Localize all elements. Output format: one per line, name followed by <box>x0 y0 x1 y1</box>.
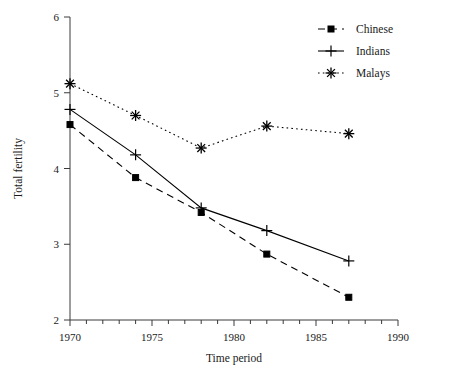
legend-label-malays: Malays <box>356 67 390 80</box>
y-tick-label: 3 <box>54 238 60 250</box>
series-line-indians <box>70 109 349 261</box>
chart-canvas: 2345619701975198019851990Time periodTota… <box>0 0 469 380</box>
legend-marker-chinese <box>328 26 334 32</box>
data-point-chinese <box>346 294 352 300</box>
y-tick-label: 5 <box>54 87 60 99</box>
x-tick-label: 1975 <box>141 331 164 343</box>
legend-label-indians: Indians <box>356 45 390 57</box>
data-point-chinese <box>67 122 73 128</box>
data-point-chinese <box>133 175 139 181</box>
legend-label-chinese: Chinese <box>356 23 393 35</box>
x-axis-title: Time period <box>206 352 262 365</box>
x-tick-label: 1985 <box>305 331 328 343</box>
y-tick-label: 4 <box>54 163 60 175</box>
fertility-line-chart: 2345619701975198019851990Time periodTota… <box>0 0 469 380</box>
y-axis-title: Total fertility <box>12 138 25 199</box>
x-tick-label: 1970 <box>59 331 82 343</box>
y-tick-label: 2 <box>54 314 60 326</box>
y-tick-label: 6 <box>54 11 60 23</box>
x-tick-label: 1980 <box>223 331 246 343</box>
data-point-chinese <box>264 251 270 257</box>
x-tick-label: 1990 <box>387 331 410 343</box>
